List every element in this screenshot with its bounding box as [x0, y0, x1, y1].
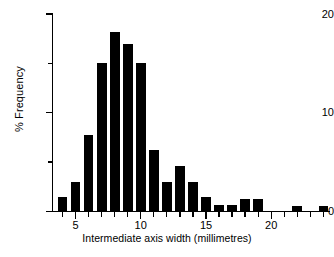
histogram-bar	[175, 166, 185, 211]
histogram-bar	[292, 206, 302, 212]
axis-spines	[53, 14, 331, 212]
histogram-bar	[240, 199, 250, 212]
histogram-bar	[136, 63, 146, 211]
x-axis-title: Intermediate axis width (millimetres)	[0, 232, 334, 244]
y-tick-label-20: 20	[308, 9, 334, 20]
histogram-bar	[227, 205, 237, 212]
histogram-bar	[253, 199, 263, 212]
histogram-bar	[110, 32, 120, 212]
histogram-bar	[214, 205, 224, 212]
y-tick-label-10: 10	[308, 107, 334, 118]
histogram-bar	[123, 44, 133, 212]
figure-caption	[14, 249, 334, 257]
x-tick-label-20: 20	[256, 220, 286, 231]
x-axis-ticks	[62, 212, 323, 219]
x-tick-label-5: 5	[61, 220, 91, 231]
y-axis-title: % Frequency	[13, 39, 25, 159]
histogram-bar	[58, 197, 68, 212]
histogram-bar	[84, 135, 94, 211]
histogram-bar	[162, 182, 172, 212]
histogram-bar	[201, 197, 211, 212]
x-tick-label-10: 10	[126, 220, 156, 231]
histogram-bar	[71, 182, 81, 212]
histogram-figure: 20 10 0 5 10 15 20 % Frequency Intermedi…	[0, 0, 334, 257]
y-axis-ticks	[46, 14, 53, 212]
y-tick-label-0: 0	[308, 206, 334, 217]
histogram-bar	[149, 150, 159, 211]
histogram-bar	[188, 182, 198, 212]
histogram-bars	[58, 32, 329, 212]
histogram-bar	[97, 63, 107, 211]
x-tick-label-15: 15	[191, 220, 221, 231]
chart-plot-area	[0, 0, 334, 257]
